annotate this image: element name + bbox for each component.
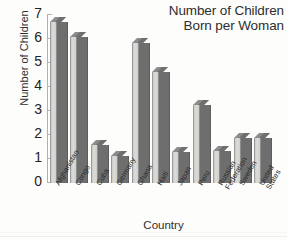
chart-title-line-2: Born per Woman xyxy=(134,18,284,33)
y-tick-label: 4 xyxy=(16,77,42,94)
bar-top-face xyxy=(50,17,68,22)
bar-afghanistan xyxy=(50,17,68,183)
x-axis-label: Country xyxy=(40,219,287,231)
scan-artifact-1 xyxy=(0,236,287,237)
bar-top-face xyxy=(132,38,150,43)
bar-top-face xyxy=(152,67,170,72)
y-tick-label: 5 xyxy=(16,53,42,70)
plot-area: 01234567 xyxy=(47,14,287,182)
y-tick-label: 1 xyxy=(16,149,42,166)
bar-top-face xyxy=(70,32,88,37)
scan-artifact-2 xyxy=(0,232,287,233)
chart-title-line-1: Number of Children xyxy=(134,3,284,18)
chart-title: Number of Children Born per Woman xyxy=(134,3,284,33)
bar-chart-figure: Number of Children Born per Woman Number… xyxy=(0,0,287,240)
y-tick-label: 3 xyxy=(16,101,42,118)
y-tick-label: 7 xyxy=(16,5,42,22)
y-tick-label: 0 xyxy=(16,173,42,190)
x-axis-tick-labels: AfghanistanCongoCubaGermanyGhanaHaitiJap… xyxy=(50,183,287,223)
y-tick-label: 2 xyxy=(16,125,42,142)
bar-top-face xyxy=(193,100,211,105)
y-tick-label: 6 xyxy=(16,29,42,46)
bar-front-face xyxy=(50,22,57,183)
